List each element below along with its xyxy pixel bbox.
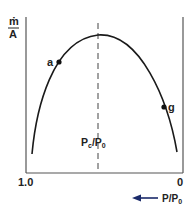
y-axis-label-numerator: ṁ (9, 15, 19, 27)
point-a-label: a (47, 56, 54, 68)
point-a-marker (56, 59, 61, 64)
flow-rate-diagram: a g ṁ A Pc/P0 1.0 0 P/P0 (0, 0, 195, 216)
arrow-left-icon (132, 195, 141, 202)
y-axis-label-denominator: A (9, 28, 17, 40)
critical-ratio-label: Pc/P0 (81, 136, 106, 149)
flow-curve (32, 35, 177, 154)
x-axis-left-tick: 1.0 (18, 176, 33, 188)
point-g-label: g (168, 101, 175, 113)
point-g-marker (161, 104, 166, 109)
x-axis-right-tick: 0 (177, 176, 183, 188)
x-axis-direction-label: P/P0 (162, 193, 182, 205)
